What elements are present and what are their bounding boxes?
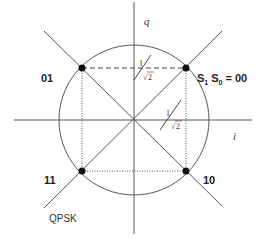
qpsk-constellation-diagram: q i 01 11 10 S1S0= 00 1 √ 2 1 √ 2 QPSK bbox=[0, 0, 264, 246]
diagram-title: QPSK bbox=[49, 213, 77, 224]
s-value: = 00 bbox=[226, 72, 248, 84]
s1-subscript: 1 bbox=[204, 79, 208, 86]
point-10 bbox=[183, 168, 190, 175]
i-axis-label: i bbox=[233, 130, 236, 142]
label-10: 10 bbox=[203, 174, 215, 186]
point-01 bbox=[79, 65, 86, 72]
s0-letter: S bbox=[211, 72, 218, 84]
q-axis-label: q bbox=[144, 15, 150, 27]
s1-letter: S bbox=[197, 72, 204, 84]
point-11 bbox=[79, 168, 86, 175]
point-00 bbox=[183, 65, 190, 72]
annotation-1-numerator: 1 bbox=[139, 59, 143, 68]
label-00: S1S0= 00 bbox=[197, 72, 247, 86]
label-11: 11 bbox=[44, 174, 56, 186]
label-01: 01 bbox=[41, 72, 53, 84]
annotation-1-denominator: 2 bbox=[148, 73, 152, 82]
annotation-2-numerator: 1 bbox=[166, 109, 170, 118]
annotation-2-denominator: 2 bbox=[176, 122, 180, 131]
s0-subscript: 0 bbox=[219, 79, 223, 86]
